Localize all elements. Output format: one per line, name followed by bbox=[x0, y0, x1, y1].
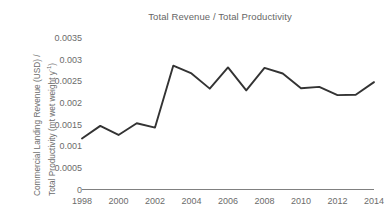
x-axis-tick-2: 2002 bbox=[135, 196, 175, 206]
x-axis-tick-7: 2012 bbox=[318, 196, 358, 206]
x-axis-tick-4: 2006 bbox=[208, 196, 248, 206]
data-series-line bbox=[82, 66, 374, 139]
x-axis-tick-6: 2010 bbox=[281, 196, 321, 206]
x-axis-tick-0: 1998 bbox=[62, 196, 102, 206]
x-axis-tick-1: 2000 bbox=[99, 196, 139, 206]
x-axis-tick-5: 2008 bbox=[245, 196, 285, 206]
x-axis-tick-3: 2004 bbox=[172, 196, 212, 206]
x-axis-tick-8: 2014 bbox=[354, 196, 389, 206]
